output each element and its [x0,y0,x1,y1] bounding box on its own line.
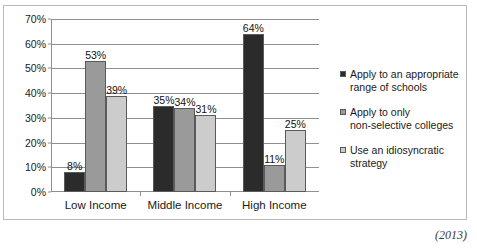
bar-slot: 11% [264,19,285,192]
y-axis-tick-label: 30% [25,112,46,124]
bar[interactable]: 39% [106,96,127,192]
y-axis-tick-mark [48,68,51,69]
bar-group: 64%11%25%High Income [230,19,319,192]
y-axis-tick-mark [48,192,51,193]
y-axis-tick-mark [48,43,51,44]
legend-label: Apply to only non-selective colleges [350,106,453,131]
bar-value-label: 39% [106,84,127,96]
legend-swatch-icon [340,109,346,115]
plot-area: 8%53%39%Low Income35%34%31%Middle Income… [51,19,319,192]
bar-value-label: 31% [195,103,216,115]
x-axis-category-label: Middle Income [148,199,223,211]
legend-swatch-icon [340,147,346,153]
y-axis-tick-mark [48,167,51,168]
bar-slot: 39% [106,19,127,192]
bar[interactable]: 11% [264,165,285,192]
y-axis-tick-label: 40% [25,87,46,99]
chart-legend: Apply to an appropriate range of schools… [340,68,476,182]
y-axis-tick-mark [48,142,51,143]
bar[interactable]: 31% [195,115,216,192]
y-axis-tick-label: 50% [25,62,46,74]
bar-slot: 64% [243,19,264,192]
bar[interactable]: 64% [243,34,264,192]
legend-label: Apply to an appropriate range of schools [350,68,459,93]
bar-slot: 35% [153,19,174,192]
bar-slot: 8% [64,19,85,192]
y-axis-tick-label: 10% [25,161,46,173]
bar-value-label: 34% [174,96,195,108]
legend-item[interactable]: Use an idiosyncratic strategy [340,144,476,169]
bar[interactable]: 34% [174,108,195,192]
y-axis-tick-label: 70% [25,13,46,25]
y-axis-tick-mark [48,117,51,118]
legend-label: Use an idiosyncratic strategy [350,144,444,169]
bar-slot: 34% [174,19,195,192]
source-note: (2013) [435,228,467,243]
x-axis-tick-mark [140,192,141,196]
y-axis-tick-label: 20% [25,137,46,149]
y-axis-tick-mark [48,19,51,20]
bar-value-label: 64% [243,22,264,34]
bar-slot: 31% [195,19,216,192]
bar-value-label: 11% [264,153,284,165]
bar-value-label: 35% [153,94,174,106]
bar-group: 8%53%39%Low Income [51,19,140,192]
bar[interactable]: 25% [285,130,306,192]
bar-value-label: 25% [285,118,306,130]
legend-item[interactable]: Apply to an appropriate range of schools [340,68,476,93]
bar[interactable]: 8% [64,172,85,192]
bar-value-label: 8% [67,160,82,172]
x-axis-category-label: High Income [242,199,307,211]
y-axis-tick-mark [48,93,51,94]
legend-item[interactable]: Apply to only non-selective colleges [340,106,476,131]
x-axis-category-label: Low Income [65,199,127,211]
bar-slot: 53% [85,19,106,192]
x-axis-tick-mark [230,192,231,196]
y-axis-tick-label: 0% [31,186,46,198]
legend-swatch-icon [340,71,346,77]
bar-slot: 25% [285,19,306,192]
bar-value-label: 53% [85,49,106,61]
y-axis-tick-label: 60% [25,38,46,50]
chart-frame: 8%53%39%Low Income35%34%31%Middle Income… [3,5,467,220]
bar[interactable]: 53% [85,61,106,192]
bar-groups-layer: 8%53%39%Low Income35%34%31%Middle Income… [51,19,319,192]
bar[interactable]: 35% [153,106,174,193]
bar-group: 35%34%31%Middle Income [140,19,229,192]
